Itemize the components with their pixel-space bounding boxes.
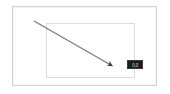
coordinate-tooltip: 0,0 bbox=[127, 60, 143, 69]
outer-window-frame bbox=[12, 6, 157, 86]
coordinate-tooltip-label: 0,0 bbox=[132, 62, 138, 67]
inner-content-rectangle[interactable] bbox=[46, 23, 135, 78]
screenshot-canvas: 0,0 bbox=[0, 0, 170, 94]
